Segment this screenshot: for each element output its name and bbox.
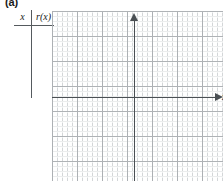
table-column-divider [31, 10, 32, 98]
x-axis [52, 97, 216, 98]
panel-label: (a) [5, 0, 18, 8]
table-header-x: x [14, 10, 31, 23]
coordinate-grid: r(x) x [52, 11, 223, 181]
value-table: x r(x) [14, 10, 54, 98]
table-header-row: x r(x) [14, 10, 54, 24]
table-header-rx: r(x) [33, 10, 54, 23]
x-axis-label: x [222, 91, 223, 102]
table-header-rule [14, 25, 54, 26]
grid-major-lines [52, 11, 223, 181]
figure-panel: (a) x r(x) r(x) x [0, 0, 223, 181]
y-axis-arrow-icon [130, 13, 138, 21]
y-axis [134, 19, 135, 181]
